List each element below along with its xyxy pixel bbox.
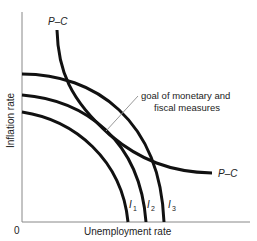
i2-label: I 2 [147,199,155,212]
annotation-line2: fiscal measures [154,102,220,113]
annotation-line1: goal of monetary and [141,90,230,101]
origin-label: 0 [14,225,20,236]
x-axis-label: Unemployment rate [84,226,172,237]
svg-text:I: I [129,199,132,210]
svg-text:I: I [147,199,150,210]
curve-i1 [22,112,128,222]
pc-label-top: P–C [48,16,68,27]
pc-label-right: P–C [218,168,238,179]
curve-i2 [22,95,146,222]
y-axis-label: Inflation rate [5,93,16,148]
svg-text:2: 2 [151,205,155,212]
svg-text:1: 1 [133,205,137,212]
svg-text:I: I [168,199,171,210]
phillips-curve-diagram: P–C P–C goal of monetary and fiscal meas… [0,0,257,241]
i3-label: I 3 [168,199,176,212]
svg-text:3: 3 [172,205,176,212]
i1-label: I 1 [129,199,137,212]
